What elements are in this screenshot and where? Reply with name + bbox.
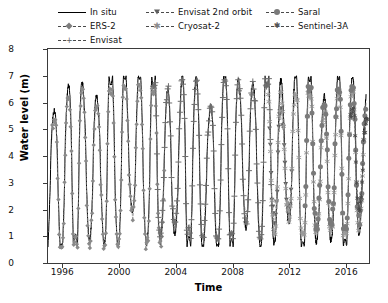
- y-tick-label: 7: [0, 71, 14, 81]
- y-tick-mark: [43, 129, 47, 130]
- legend-label-envisat-2nd-orbit: Envisat 2nd orbit: [178, 7, 252, 17]
- y-tick-mark: [43, 103, 47, 104]
- x-tick-mark: [176, 264, 177, 268]
- x-axis-label: Time: [47, 282, 370, 293]
- y-tick-label: 8: [0, 44, 14, 54]
- x-tick-label: 2004: [164, 267, 187, 277]
- legend-item-envisat: + Envisat: [58, 34, 122, 46]
- x-tick-mark: [346, 264, 347, 268]
- x-tick-mark: [119, 264, 120, 268]
- x-tick-mark: [233, 264, 234, 268]
- legend-swatch-sentinel-3a: ✱: [266, 21, 294, 32]
- chart-figure: In situ ERS-2 + Envisat Envisat 2nd orbi…: [0, 0, 388, 303]
- legend-label-envisat: Envisat: [90, 35, 122, 45]
- x-tick-label: 2016: [335, 267, 358, 277]
- legend-label-cryosat-2: Cryosat-2: [178, 21, 220, 31]
- y-tick-label: 6: [0, 98, 14, 108]
- star-small-marker-icon: ✱: [273, 22, 281, 30]
- legend-swatch-saral: [266, 7, 294, 18]
- y-tick-label: 1: [0, 231, 14, 241]
- legend-item-cryosat-2: ✱ Cryosat-2: [146, 20, 220, 32]
- circle-marker-icon: [274, 9, 280, 15]
- legend-item-in-situ: In situ: [58, 6, 117, 18]
- y-tick-label: 3: [0, 178, 14, 188]
- legend-item-sentinel-3a: ✱ Sentinel-3A: [266, 20, 348, 32]
- y-axis-label: Water level (m): [19, 58, 30, 178]
- plus-marker-icon: +: [66, 36, 73, 43]
- x-tick-mark: [289, 264, 290, 268]
- legend-item-ers-2: ERS-2: [58, 20, 116, 32]
- y-tick-label: 2: [0, 205, 14, 215]
- y-tick-label: 0: [0, 258, 14, 268]
- legend-swatch-envisat: +: [58, 35, 86, 46]
- legend-label-ers-2: ERS-2: [90, 21, 116, 31]
- star-marker-icon: ✱: [153, 22, 161, 30]
- x-tick-label: 2012: [278, 267, 301, 277]
- y-tick-mark: [43, 183, 47, 184]
- x-tick-label: 2008: [221, 267, 244, 277]
- x-tick-label: 2000: [108, 267, 131, 277]
- legend-label-in-situ: In situ: [90, 7, 117, 17]
- y-tick-mark: [43, 210, 47, 211]
- legend-swatch-in-situ: [58, 7, 86, 18]
- y-tick-label: 5: [0, 124, 14, 134]
- y-tick-label: 4: [0, 151, 14, 161]
- plot-area: [47, 48, 370, 264]
- legend-swatch-envisat-2nd-orbit: [146, 7, 174, 18]
- legend-label-saral: Saral: [298, 7, 320, 17]
- chart-legend: In situ ERS-2 + Envisat Envisat 2nd orbi…: [58, 6, 382, 46]
- series-canvas: [48, 49, 369, 263]
- x-tick-label: 1996: [51, 267, 74, 277]
- y-tick-mark: [43, 156, 47, 157]
- y-tick-mark: [43, 76, 47, 77]
- legend-item-saral: Saral: [266, 6, 320, 18]
- legend-item-envisat-2nd-orbit: Envisat 2nd orbit: [146, 6, 252, 18]
- legend-label-sentinel-3a: Sentinel-3A: [298, 21, 348, 31]
- legend-swatch-cryosat-2: ✱: [146, 21, 174, 32]
- y-tick-mark: [43, 49, 47, 50]
- x-tick-mark: [62, 264, 63, 268]
- legend-swatch-ers-2: [58, 21, 86, 32]
- diamond-marker-icon: [65, 22, 72, 29]
- y-tick-mark: [43, 236, 47, 237]
- y-tick-mark: [43, 263, 47, 264]
- triangle-down-marker-icon: [154, 9, 160, 14]
